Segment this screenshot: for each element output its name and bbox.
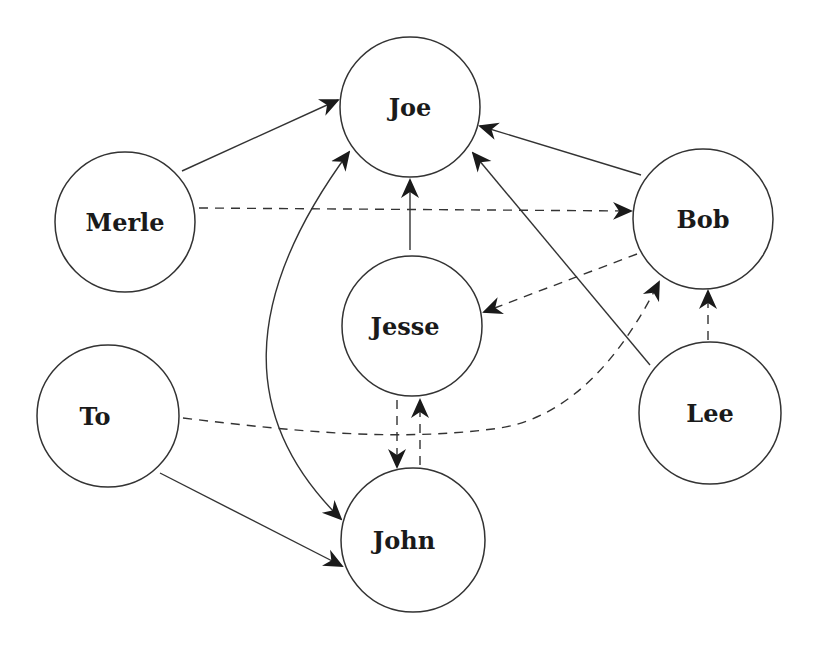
node-john: John [341,468,485,612]
edge-merle-to-bob [199,208,631,211]
node-label: Lee [686,399,733,428]
node-merle: Merle [55,152,195,292]
node-joe: Joe [340,37,480,177]
node-lee: Lee [639,342,781,484]
node-label: Jesse [369,312,440,341]
relationship-diagram: Joe Merle Bob Jesse To Lee John [0,0,817,651]
edge-to-to-john [160,473,342,566]
node-label: To [79,402,110,431]
node-to: To [37,345,179,487]
edge-merle-to-joe [182,100,338,171]
node-label: Merle [86,208,165,237]
node-label: Joe [387,93,432,122]
node-jesse: Jesse [342,256,482,396]
edge-lee-to-joe [473,153,650,365]
node-label: Bob [676,205,729,234]
edge-bob-to-jesse [484,254,637,312]
node-bob: Bob [633,149,773,289]
edge-joe-john-bidirectional [266,152,349,519]
edge-bob-to-joe [480,126,641,175]
node-label: John [371,526,435,555]
